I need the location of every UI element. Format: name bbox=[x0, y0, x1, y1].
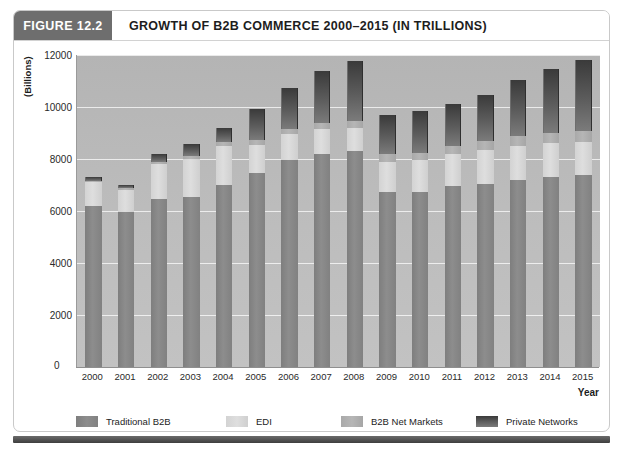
x-axis-tick-label: 2003 bbox=[180, 371, 201, 382]
bar-segment bbox=[543, 133, 559, 143]
bar-segment bbox=[543, 177, 559, 367]
y-axis-tick-label: 12000 bbox=[28, 50, 72, 61]
bar-segment bbox=[347, 61, 363, 121]
x-axis-tick-label: 2014 bbox=[539, 371, 560, 382]
legend-swatch bbox=[476, 416, 498, 427]
figure-card: FIGURE 12.2 GROWTH OF B2B COMMERCE 2000–… bbox=[13, 10, 610, 432]
bar-2000 bbox=[85, 177, 101, 367]
bar-segment bbox=[543, 143, 559, 177]
bar-segment bbox=[445, 146, 461, 154]
x-axis-line bbox=[76, 367, 599, 368]
bar-segment bbox=[412, 160, 428, 191]
bar-segment bbox=[412, 153, 428, 161]
bar-2013 bbox=[510, 80, 526, 367]
bar-segment bbox=[118, 212, 134, 367]
bar-segment bbox=[314, 71, 330, 123]
x-axis-tick-label: 2009 bbox=[376, 371, 397, 382]
x-axis-tick-label: 2010 bbox=[409, 371, 430, 382]
bar-2002 bbox=[151, 154, 167, 367]
bar-segment bbox=[183, 159, 199, 197]
bar-group bbox=[77, 55, 600, 367]
bar-segment bbox=[510, 136, 526, 146]
x-axis-tick-label: 2013 bbox=[507, 371, 528, 382]
bar-segment bbox=[379, 192, 395, 368]
bar-segment bbox=[281, 134, 297, 160]
y-axis-ticks: 20004000600080001000012000 bbox=[26, 41, 72, 432]
legend-swatch bbox=[76, 416, 98, 427]
bar-segment bbox=[347, 121, 363, 128]
bar-segment bbox=[216, 185, 232, 367]
bar-segment bbox=[575, 175, 591, 367]
legend-item: B2B Net Markets bbox=[341, 416, 443, 427]
figure-title: GROWTH OF B2B COMMERCE 2000–2015 (IN TRI… bbox=[112, 11, 609, 40]
bar-2010 bbox=[412, 111, 428, 367]
bar-2007 bbox=[314, 71, 330, 367]
bar-segment bbox=[445, 104, 461, 146]
bar-2003 bbox=[183, 144, 199, 367]
bar-2006 bbox=[281, 88, 297, 367]
bar-2009 bbox=[379, 115, 395, 367]
bar-segment bbox=[477, 141, 493, 150]
bar-segment bbox=[151, 199, 167, 367]
bar-2011 bbox=[445, 104, 461, 367]
bar-segment bbox=[445, 154, 461, 187]
y-axis-tick-label: 2000 bbox=[28, 310, 72, 321]
x-axis-label: Year bbox=[578, 387, 599, 398]
figure-number-tag: FIGURE 12.2 bbox=[14, 11, 112, 40]
bar-segment bbox=[281, 88, 297, 128]
bar-segment bbox=[412, 111, 428, 153]
bar-segment bbox=[510, 80, 526, 136]
bar-segment bbox=[281, 160, 297, 367]
legend-label: EDI bbox=[256, 416, 272, 427]
x-axis-tick-label: 2015 bbox=[572, 371, 593, 382]
legend-label: Traditional B2B bbox=[106, 416, 171, 427]
bar-segment bbox=[347, 151, 363, 367]
x-axis-tick-label: 2008 bbox=[343, 371, 364, 382]
y-axis-tick-label: 6000 bbox=[28, 206, 72, 217]
bar-segment bbox=[379, 115, 395, 154]
bar-segment bbox=[477, 150, 493, 184]
x-axis-tick-label: 2007 bbox=[311, 371, 332, 382]
bar-segment bbox=[151, 154, 167, 162]
chart-legend: Traditional B2BEDIB2B Net MarketsPrivate… bbox=[76, 413, 599, 429]
y-axis-zero-label: 0 bbox=[54, 360, 60, 371]
page-footer-rule bbox=[13, 436, 610, 443]
bar-segment bbox=[575, 60, 591, 132]
chart-plot-wrapper: (Billions) 20004000600080001000012000 0 … bbox=[14, 41, 610, 432]
bar-segment bbox=[314, 154, 330, 367]
bar-segment bbox=[183, 144, 199, 156]
x-axis-ticks: 2000200120022003200420052006200720082009… bbox=[76, 371, 599, 387]
x-axis-tick-label: 2011 bbox=[442, 371, 462, 382]
bar-segment bbox=[477, 184, 493, 367]
bar-segment bbox=[510, 146, 526, 180]
bar-segment bbox=[249, 145, 265, 174]
bar-2005 bbox=[249, 109, 265, 367]
bar-2008 bbox=[347, 61, 363, 367]
bar-segment bbox=[249, 173, 265, 367]
bar-segment bbox=[314, 129, 330, 154]
y-axis-tick-label: 4000 bbox=[28, 258, 72, 269]
legend-label: Private Networks bbox=[506, 416, 578, 427]
bar-2001 bbox=[118, 185, 134, 367]
bar-segment bbox=[85, 182, 101, 205]
x-axis-tick-label: 2006 bbox=[278, 371, 299, 382]
x-axis-tick-label: 2004 bbox=[213, 371, 234, 382]
bar-segment bbox=[118, 190, 134, 213]
bar-segment bbox=[543, 69, 559, 133]
x-axis-tick-label: 2002 bbox=[147, 371, 168, 382]
bar-segment bbox=[249, 109, 265, 140]
bar-segment bbox=[412, 192, 428, 368]
legend-swatch bbox=[341, 416, 363, 427]
legend-item: Traditional B2B bbox=[76, 416, 171, 427]
bar-segment bbox=[575, 131, 591, 142]
plot-area bbox=[76, 55, 600, 367]
y-axis-tick-label: 10000 bbox=[28, 102, 72, 113]
y-axis-tick-label: 8000 bbox=[28, 154, 72, 165]
bar-segment bbox=[379, 154, 395, 161]
x-axis-tick-label: 2000 bbox=[82, 371, 103, 382]
legend-item: EDI bbox=[226, 416, 272, 427]
bar-segment bbox=[216, 146, 232, 185]
bar-2004 bbox=[216, 128, 232, 367]
bar-2012 bbox=[477, 95, 493, 367]
bar-segment bbox=[379, 162, 395, 192]
